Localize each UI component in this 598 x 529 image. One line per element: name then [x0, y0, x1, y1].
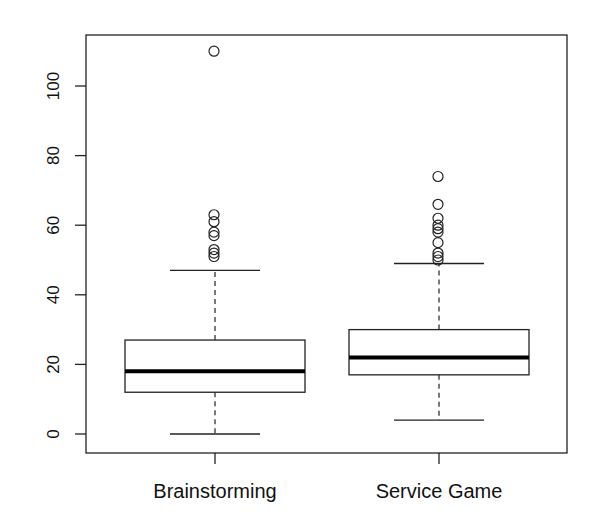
box-service-game — [349, 171, 529, 420]
y-tick-label: 20 — [44, 355, 63, 374]
outlier-point — [209, 217, 219, 227]
outlier-point — [433, 199, 443, 209]
y-tick-label: 100 — [44, 72, 63, 100]
boxes — [125, 46, 529, 434]
box-brainstorming — [125, 46, 305, 434]
y-tick-label: 40 — [44, 285, 63, 304]
x-tick-label: Brainstorming — [153, 480, 276, 502]
y-tick-label: 60 — [44, 216, 63, 235]
iqr-box — [349, 330, 529, 375]
boxplot-chart: 020406080100 BrainstormingService Game — [0, 0, 598, 529]
y-tick-label: 80 — [44, 146, 63, 165]
x-tick-label: Service Game — [376, 480, 503, 502]
iqr-box — [125, 340, 305, 392]
outlier-point — [209, 46, 219, 56]
outlier-point — [433, 238, 443, 248]
y-tick-label: 0 — [44, 429, 63, 438]
y-axis: 020406080100 — [44, 72, 86, 439]
outlier-point — [433, 171, 443, 181]
x-axis: BrainstormingService Game — [153, 453, 502, 502]
